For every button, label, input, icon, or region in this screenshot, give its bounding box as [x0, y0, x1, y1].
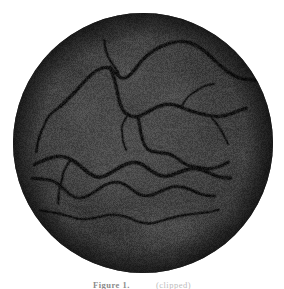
figure-caption-label: Figure 1.	[93, 280, 130, 289]
figure-caption-text: (clipped)	[156, 280, 191, 289]
figure-caption: Figure 1.(clipped)	[0, 280, 284, 289]
retinal-fundus-image	[13, 13, 273, 273]
fundus-canvas	[13, 13, 273, 273]
figure-page: Figure 1.(clipped)	[0, 0, 284, 289]
